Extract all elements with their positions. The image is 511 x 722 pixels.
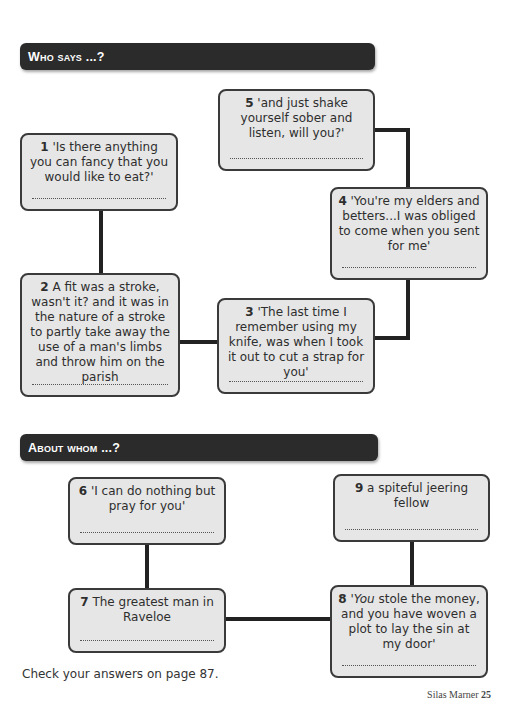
section-title: Who says ...? <box>28 50 105 64</box>
answer-line[interactable] <box>229 380 363 382</box>
box-number: 5 <box>245 96 253 110</box>
book-title: Silas Marner <box>427 689 478 700</box>
quote-box-9: 9 a spiteful jeering fellow <box>333 474 490 542</box>
connector-9-8-vertical <box>410 540 414 587</box>
quote-box-6: 6 'I can do nothing but pray for you' <box>68 477 226 545</box>
connector-1-2-vertical <box>99 209 103 275</box>
answer-line[interactable] <box>80 639 214 641</box>
check-answers-note: Check your answers on page 87. <box>22 667 219 681</box>
box-number: 3 <box>245 305 253 319</box>
page-footer: Silas Marner 25 <box>427 689 491 700</box>
quote-box-1: 1 'Is there anything you can fancy that … <box>20 133 178 211</box>
box-number: 4 <box>338 194 346 208</box>
section-header-about-whom: About whom ...? <box>20 434 378 461</box>
box-text: A fit was a stroke, wasn't it? and it wa… <box>30 280 170 384</box>
section-header-who-says: Who says ...? <box>20 43 375 70</box>
answer-line[interactable] <box>80 531 214 533</box>
answer-line[interactable] <box>32 197 166 199</box>
quote-box-7: 7 The greatest man in Raveloe <box>68 588 226 653</box>
box-number: 2 <box>40 280 48 294</box>
box-number: 1 <box>40 140 48 154</box>
quote-box-8: 8 'You stole the money, and you have wov… <box>330 585 488 678</box>
connector-7-8-horizontal <box>224 617 332 621</box>
page-number: 25 <box>481 689 491 700</box>
connector-4-3-vertical <box>406 278 410 340</box>
box-text: 'I can do nothing but pray for you' <box>91 484 215 513</box>
connector-4-3-horizontal <box>374 336 410 340</box>
quote-box-4: 4 'You're my elders and betters...I was … <box>330 187 488 280</box>
answer-line[interactable] <box>345 528 478 530</box>
answer-line[interactable] <box>32 383 168 385</box>
box-text: The greatest man in Raveloe <box>92 595 213 624</box>
answer-line[interactable] <box>342 266 476 268</box>
quote-box-2: 2 A fit was a stroke, wasn't it? and it … <box>20 273 180 397</box>
box-text-italic: 'You <box>350 592 374 606</box>
connector-5-4-horizontal <box>374 128 410 132</box>
box-text: 'and just shake yourself sober and liste… <box>241 96 353 140</box>
answer-line[interactable] <box>342 664 476 666</box>
box-text: 'You're my elders and betters...I was ob… <box>339 194 480 253</box>
box-number: 8 <box>338 592 346 606</box>
box-text: 'Is there anything you can fancy that yo… <box>30 140 168 184</box>
box-number: 9 <box>355 481 363 495</box>
section-title: About whom ...? <box>28 441 120 455</box>
box-text: a spiteful jeering fellow <box>367 481 468 510</box>
quote-box-3: 3 'The last time I remember using my kni… <box>217 298 375 394</box>
box-number: 6 <box>79 484 87 498</box>
connector-6-7-vertical <box>145 543 149 590</box>
quote-box-5: 5 'and just shake yourself sober and lis… <box>218 89 375 171</box>
connector-3-2-horizontal <box>178 340 220 344</box>
connector-5-4-vertical <box>406 128 410 190</box>
box-number: 7 <box>80 595 88 609</box>
answer-line[interactable] <box>230 157 363 159</box>
